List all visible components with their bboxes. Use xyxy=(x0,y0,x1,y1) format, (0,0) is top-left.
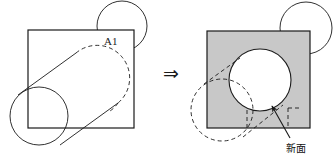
left-figure-group: A1 xyxy=(10,1,147,145)
right-figure-group: 新面 xyxy=(191,2,332,154)
new-surface-label: 新面 xyxy=(286,142,306,154)
diagram-canvas: A1 ⇒ 新面 xyxy=(0,0,336,164)
boolean-operation-diagram: A1 ⇒ 新面 xyxy=(0,0,336,164)
hole-circle-new-surface xyxy=(229,49,291,111)
plate-label-a1: A1 xyxy=(104,35,117,47)
transform-arrow-icon: ⇒ xyxy=(163,62,179,84)
left-plate-square xyxy=(28,30,134,128)
